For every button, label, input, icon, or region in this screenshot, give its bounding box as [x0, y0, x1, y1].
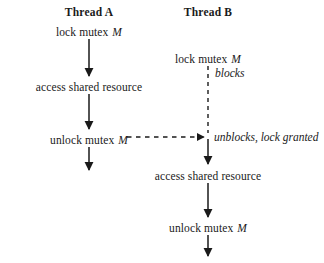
thread-a-step-lock-var: M [111, 26, 122, 38]
unblocks-annotation: unblocks, lock granted [214, 131, 318, 144]
thread-b-step-unlock: unlock mutex M [169, 222, 247, 235]
thread-b-step-lock-var: M [230, 53, 241, 65]
thread-a-step-access: access shared resource [36, 81, 142, 94]
thread-b-step-unlock-var: M [236, 222, 247, 234]
thread-a-step-unlock-var: M [117, 134, 128, 146]
thread-a-header: Thread A [65, 6, 113, 18]
thread-a-step-unlock: unlock mutex M [50, 134, 128, 147]
thread-a-step-lock-text: lock mutex [56, 26, 111, 38]
mutex-sequence-diagram: Thread A Thread B lock mutex M access sh… [0, 0, 324, 263]
thread-a-step-unlock-text: unlock mutex [50, 134, 117, 146]
thread-a-step-access-text: access shared resource [36, 81, 142, 93]
thread-b-step-lock-text: lock mutex [175, 53, 230, 65]
thread-b-step-lock: lock mutex M [175, 53, 241, 66]
thread-a-step-lock: lock mutex M [56, 26, 122, 39]
blocks-annotation: blocks [215, 67, 244, 80]
thread-b-step-access-text: access shared resource [155, 170, 261, 182]
thread-b-header: Thread B [184, 6, 232, 18]
thread-b-step-access: access shared resource [155, 170, 261, 183]
thread-b-step-unlock-text: unlock mutex [169, 222, 236, 234]
